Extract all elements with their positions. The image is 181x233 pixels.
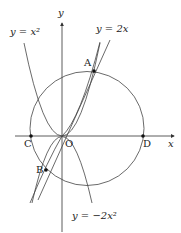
origin-label: O — [65, 139, 73, 149]
point-a-label: A — [84, 58, 91, 68]
line-y-equals-2x — [38, 40, 110, 200]
point-c-label: C — [24, 139, 32, 149]
label-y-equals-2x: y = 2x — [96, 24, 128, 34]
point-b — [44, 168, 48, 172]
label-y-equals-neg-2x-squared: y = −2x² — [72, 211, 117, 221]
point-a — [92, 69, 96, 73]
label-y-equals-x-squared: y = x² — [10, 27, 40, 37]
circle — [30, 72, 144, 186]
point-b-label: B — [36, 165, 43, 175]
y-axis-label: y — [58, 8, 64, 18]
point-d-label: D — [143, 139, 151, 149]
x-axis-label: x — [168, 139, 174, 149]
geometry-figure: y x O y = x² y = 2x y = −2x² A B C D — [0, 0, 181, 233]
